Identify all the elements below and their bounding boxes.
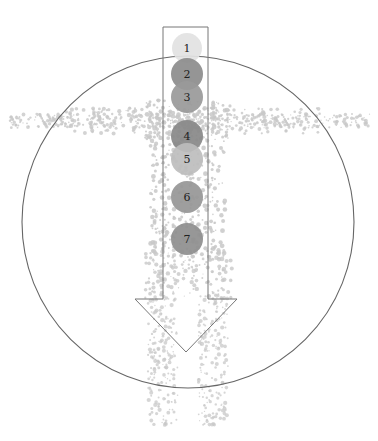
- chakra-diagram: 1234567: [0, 0, 378, 441]
- node-3: 3: [171, 81, 203, 113]
- node-6: 6: [171, 181, 203, 213]
- numbered-nodes: 1234567: [171, 33, 203, 255]
- node-label: 5: [184, 153, 191, 166]
- node-label: 4: [184, 130, 191, 143]
- node-7: 7: [171, 223, 203, 255]
- diagram-canvas: 1234567: [0, 0, 378, 441]
- node-label: 7: [184, 233, 191, 246]
- node-5: 5: [171, 143, 203, 175]
- node-label: 2: [184, 68, 191, 81]
- node-label: 6: [184, 191, 191, 204]
- node-label: 3: [184, 91, 191, 104]
- node-label: 1: [184, 42, 191, 55]
